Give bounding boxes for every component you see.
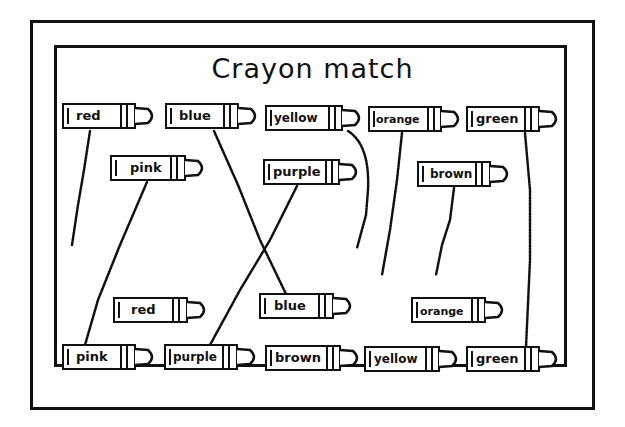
crayon-body: green [466, 106, 540, 132]
crayon-tip-icon [338, 162, 362, 182]
crayon-body: red [62, 103, 136, 129]
crayon-body: purple [164, 344, 238, 370]
crayon-body: brown [417, 161, 491, 187]
crayon-tip-icon [538, 109, 562, 129]
line-brown-incomplete [436, 188, 454, 275]
crayon-top-blue[interactable]: blue [165, 103, 261, 129]
crayon-label: purple [273, 164, 321, 179]
crayon-tip-icon [237, 106, 261, 126]
crayon-label: orange [376, 113, 420, 126]
crayon-bottom-purple[interactable]: purple [164, 344, 260, 370]
crayon-label: green [476, 111, 519, 126]
crayon-second-pink[interactable]: pink [110, 155, 210, 181]
crayon-body: purple [263, 159, 340, 185]
crayon-body: yellow [265, 105, 343, 131]
crayon-tip-icon [484, 300, 508, 320]
crayon-label: yellow [274, 111, 318, 125]
crayon-tip-icon [341, 108, 365, 128]
crayon-label: purple [173, 350, 217, 364]
crayon-label: red [131, 302, 156, 317]
crayon-body: green [466, 346, 540, 372]
crayon-lower-orange[interactable]: orange [411, 297, 509, 323]
crayon-top-orange[interactable]: orange [368, 106, 464, 132]
crayon-label: pink [130, 160, 162, 175]
crayon-tip-icon [134, 347, 158, 367]
crayon-tip-icon [538, 349, 562, 369]
crayon-body: pink [110, 155, 186, 181]
crayon-label: brown [430, 167, 472, 181]
line-blue-match [214, 131, 286, 294]
crayon-tip-icon [489, 164, 513, 184]
crayon-body: blue [259, 293, 334, 319]
crayon-label: yellow [374, 352, 418, 366]
crayon-tip-icon [438, 349, 462, 369]
crayon-body: orange [368, 106, 442, 132]
crayon-bottom-pink[interactable]: pink [62, 344, 158, 370]
crayon-bottom-green[interactable]: green [466, 346, 562, 372]
crayon-tip-icon [186, 300, 210, 320]
crayon-second-purple[interactable]: purple [263, 159, 363, 185]
crayon-body: orange [411, 297, 486, 323]
crayon-label: green [476, 351, 519, 366]
crayon-top-green[interactable]: green [466, 106, 562, 132]
crayon-label: brown [275, 350, 321, 365]
crayon-top-yellow[interactable]: yellow [265, 105, 365, 131]
crayon-second-brown[interactable]: brown [417, 161, 513, 187]
crayon-bottom-brown[interactable]: brown [265, 345, 363, 371]
crayon-lower-red[interactable]: red [113, 297, 211, 323]
crayon-label: red [76, 108, 101, 123]
crayon-body: yellow [364, 346, 440, 372]
crayon-lower-blue[interactable]: blue [259, 293, 357, 319]
line-purple-match [210, 186, 297, 345]
crayon-label: blue [274, 298, 306, 313]
crayon-tip-icon [339, 348, 363, 368]
line-red-incomplete [72, 131, 90, 245]
crayon-tip-icon [332, 296, 356, 316]
crayon-label: pink [76, 349, 108, 364]
crayon-tip-icon [440, 109, 464, 129]
crayon-label: blue [179, 108, 211, 123]
crayon-body: red [113, 297, 188, 323]
line-green-match [525, 133, 530, 347]
line-yellow-incomplete [348, 131, 368, 248]
crayon-bottom-yellow[interactable]: yellow [364, 346, 462, 372]
line-orange-incomplete [382, 133, 402, 275]
crayon-body: brown [265, 345, 341, 371]
crayon-body: pink [62, 344, 136, 370]
crayon-tip-icon [184, 158, 208, 178]
crayon-tip-icon [134, 106, 158, 126]
crayon-top-red[interactable]: red [62, 103, 158, 129]
crayon-body: blue [165, 103, 239, 129]
crayon-label: orange [420, 305, 464, 318]
crayon-tip-icon [236, 347, 260, 367]
